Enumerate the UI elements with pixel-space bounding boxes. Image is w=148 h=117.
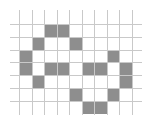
filled-cell (107, 88, 119, 101)
filled-cell (69, 37, 82, 50)
filled-cell (94, 101, 107, 114)
filled-cell (32, 75, 44, 88)
filled-cell (119, 75, 132, 88)
filled-cell (82, 101, 94, 114)
filled-cell (57, 24, 69, 37)
filled-cell (119, 62, 132, 75)
pixel-grid (0, 0, 148, 117)
filled-cell (107, 50, 119, 62)
filled-cell (94, 62, 107, 75)
filled-cell (44, 62, 57, 75)
filled-cell (57, 62, 69, 75)
filled-cell (32, 37, 44, 50)
filled-cell (82, 62, 94, 75)
filled-cell (19, 50, 32, 62)
filled-cell (69, 88, 82, 101)
filled-cell (19, 62, 32, 75)
filled-cell (44, 24, 57, 37)
